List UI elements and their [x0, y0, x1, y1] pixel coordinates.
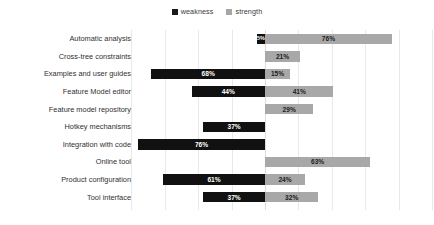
legend-swatch-weakness-icon [172, 9, 178, 15]
bar-value-label: 76% [195, 141, 208, 148]
bar-group: 63% [0, 153, 434, 171]
bar-strength[interactable]: 41% [265, 86, 333, 96]
bar-group: 37%32% [0, 188, 434, 206]
bar-strength[interactable]: 15% [265, 69, 290, 79]
chart-rows: Automatic analysis5%76%Cross-tree constr… [0, 30, 434, 206]
chart-legend: weakness strength [0, 8, 434, 16]
bar-value-label: 68% [202, 70, 215, 77]
chart-row: Feature model repository29% [0, 100, 434, 118]
bar-strength[interactable]: 21% [265, 51, 300, 61]
bar-value-label: 24% [278, 176, 291, 183]
chart-row: Cross-tree constraints21% [0, 48, 434, 66]
bar-weakness[interactable]: 61% [163, 174, 265, 184]
legend-item-weakness[interactable]: weakness [172, 8, 214, 16]
bar-value-label: 63% [311, 158, 324, 165]
chart-row: Tool interface37%32% [0, 188, 434, 206]
bar-group: 29% [0, 100, 434, 118]
bar-strength[interactable]: 29% [265, 104, 313, 114]
chart-row: Feature Model editor44%41% [0, 83, 434, 101]
chart-row: Online tool63% [0, 153, 434, 171]
bar-group: 5%76% [0, 30, 434, 48]
bar-group: 61%24% [0, 171, 434, 189]
bar-value-label: 76% [322, 35, 335, 42]
bar-group: 21% [0, 48, 434, 66]
chart-row: Automatic analysis5%76% [0, 30, 434, 48]
chart-row: Product configuration61%24% [0, 171, 434, 189]
chart-row: Integration with code76% [0, 136, 434, 154]
bar-weakness[interactable]: 37% [203, 192, 265, 202]
bar-value-label: 32% [285, 194, 298, 201]
bar-value-label: 21% [276, 53, 289, 60]
bar-value-label: 37% [227, 194, 240, 201]
bar-value-label: 61% [207, 176, 220, 183]
legend-label-weakness: weakness [181, 8, 214, 16]
bar-value-label: 44% [222, 88, 235, 95]
bar-strength[interactable]: 32% [265, 192, 318, 202]
bar-value-label: 29% [283, 106, 296, 113]
chart-row: Examples and user guides68%15% [0, 65, 434, 83]
plot-area: Automatic analysis5%76%Cross-tree constr… [0, 30, 434, 215]
bar-strength[interactable]: 24% [265, 174, 305, 184]
bar-value-label: 15% [271, 70, 284, 77]
legend-label-strength: strength [235, 8, 262, 16]
bar-group: 68%15% [0, 65, 434, 83]
bar-weakness[interactable]: 76% [138, 139, 265, 149]
bar-group: 76% [0, 136, 434, 154]
bar-strength[interactable]: 76% [265, 34, 392, 44]
survey-bar-chart: weakness strength Automatic analysis5%76… [0, 0, 434, 225]
bar-value-label: 5% [257, 35, 265, 42]
chart-row: Hotkey mechanisms37% [0, 118, 434, 136]
bar-value-label: 37% [227, 123, 240, 130]
bar-weakness[interactable]: 68% [151, 69, 265, 79]
bar-group: 37% [0, 118, 434, 136]
legend-item-strength[interactable]: strength [226, 8, 262, 16]
bar-weakness[interactable]: 37% [203, 122, 265, 132]
bar-weakness[interactable]: 44% [192, 86, 265, 96]
bar-strength[interactable]: 63% [265, 157, 370, 167]
bar-weakness[interactable]: 5% [257, 34, 265, 44]
bar-value-label: 41% [293, 88, 306, 95]
bar-group: 44%41% [0, 83, 434, 101]
legend-swatch-strength-icon [226, 9, 232, 15]
